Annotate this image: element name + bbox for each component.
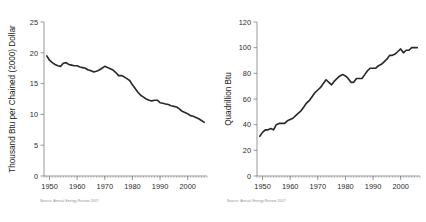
- y-axis: 0510152025: [30, 18, 44, 181]
- energy-consumption-chart: 020406080100120 195019601970198019902000…: [213, 0, 426, 222]
- x-tick-label: 1980: [124, 182, 140, 191]
- y-tick-label: 120: [239, 18, 251, 27]
- x-tick-label: 2000: [392, 182, 408, 191]
- y-tick-label: 5: [34, 141, 38, 150]
- y-tick-label: 20: [30, 49, 38, 58]
- y-tick-label: 20: [243, 146, 251, 155]
- x-axis: 195019601970198019902000: [41, 176, 207, 191]
- y-tick-group: 0510152025: [30, 18, 44, 181]
- y-tick-label: 0: [247, 172, 251, 181]
- y-tick-label: 100: [239, 43, 251, 52]
- x-tick-label: 1990: [365, 182, 381, 191]
- x-tick-label: 1960: [282, 182, 298, 191]
- y-axis-title: Quadrillion Btu: [224, 72, 233, 126]
- x-tick-label: 1950: [41, 182, 57, 191]
- y-tick-label: 80: [243, 69, 251, 78]
- y-axis: 020406080100120: [239, 18, 257, 181]
- x-tick-label: 2000: [179, 182, 195, 191]
- x-tick-label: 1970: [310, 182, 326, 191]
- chart-panel-energy-consumption: 020406080100120 195019601970198019902000…: [213, 0, 426, 222]
- chart-panel-energy-intensity: 0510152025 195019601970198019902000 Thou…: [0, 0, 213, 222]
- x-tick-label: 1980: [337, 182, 353, 191]
- y-axis-title: Thousand Btu per Chained (2000) Dollar: [8, 25, 17, 173]
- x-axis: 195019601970198019902000: [254, 176, 420, 191]
- source-note-right: Source: Annual Energy Review 2007: [227, 199, 286, 203]
- y-tick-label: 15: [30, 79, 38, 88]
- y-tick-label: 40: [243, 120, 251, 129]
- x-tick-group: 195019601970198019902000: [254, 176, 409, 191]
- x-tick-label: 1960: [69, 182, 85, 191]
- energy-intensity-chart: 0510152025 195019601970198019902000 Thou…: [0, 0, 213, 222]
- x-tick-label: 1970: [97, 182, 113, 191]
- y-tick-group: 020406080100120: [239, 18, 257, 181]
- x-tick-label: 1990: [152, 182, 168, 191]
- series-line-energy-intensity: [47, 56, 204, 123]
- series-line-energy-consumption: [260, 48, 417, 137]
- y-tick-label: 10: [30, 110, 38, 119]
- x-tick-label: 1950: [254, 182, 270, 191]
- y-tick-label: 0: [34, 172, 38, 181]
- source-note-left: Source: Annual Energy Review 2007: [40, 199, 99, 203]
- y-tick-label: 25: [30, 18, 38, 27]
- x-tick-group: 195019601970198019902000: [41, 176, 196, 191]
- figure-container: 0510152025 195019601970198019902000 Thou…: [0, 0, 426, 222]
- y-tick-label: 60: [243, 95, 251, 104]
